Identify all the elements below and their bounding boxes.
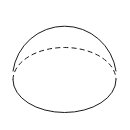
sphere-outline-arc (13, 26, 116, 71)
equator-back-arc (13, 48, 116, 80)
sphere-diagram: Sphere with equatorial cross-section (0, 0, 130, 130)
equator-front-arc (13, 80, 116, 112)
figure-container: Sphere with equatorial cross-section (0, 0, 130, 130)
